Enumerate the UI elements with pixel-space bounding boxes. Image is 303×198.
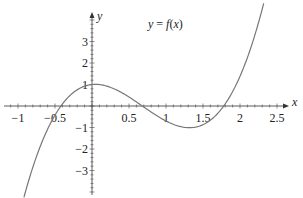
x-tick-label: −1 [12,111,25,125]
x-tick-label: 1 [163,111,169,125]
y-axis-arrow-icon [90,12,95,18]
y-tick-label: −1 [75,121,88,135]
x-axis-arrow-icon [283,104,289,109]
x-axis-label: x [291,95,298,109]
y-tick-label: −3 [75,164,88,178]
axes [4,12,289,195]
x-tick-label: 2.5 [270,111,285,125]
function-plot: −1−0.50.511.522.5321−1−2−3 x y y = f(x) [0,0,303,198]
y-tick-label: 1 [82,78,88,92]
y-tick-label: 3 [82,35,88,49]
y-axis-label: y [96,9,103,23]
chart-title: y = f(x) [147,17,183,31]
x-tick-label: 2 [237,111,243,125]
y-tick-label: −2 [75,142,88,156]
x-tick-label: −0.5 [44,111,66,125]
x-tick-label: 1.5 [196,111,211,125]
y-tick-label: 2 [82,56,88,70]
x-tick-label: 0.5 [122,111,137,125]
function-curve [24,3,264,197]
